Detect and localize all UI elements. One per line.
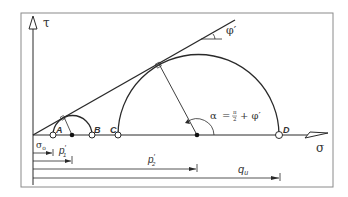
- sigma-axis-arrowhead-icon: [305, 132, 328, 138]
- alpha-equation: α =: [210, 110, 230, 121]
- arrowhead-icon: [46, 151, 52, 155]
- sigma-axis-label: σ: [316, 141, 324, 155]
- tau-axis-arrowhead-icon: [29, 16, 37, 29]
- point-d-label: D: [283, 125, 290, 135]
- arrowhead-icon: [271, 176, 279, 180]
- sigma0-label: σo: [36, 140, 46, 151]
- arrowhead-icon: [65, 159, 71, 163]
- point-a-label: A: [55, 125, 63, 135]
- p1-label: p′1: [58, 144, 67, 158]
- alpha-angle-arc-icon: [187, 119, 214, 135]
- large-circle-radius: [159, 64, 197, 135]
- alpha-pi: π: [233, 109, 237, 115]
- small-circle-radius: [64, 117, 72, 135]
- point-c-label: C: [110, 125, 117, 135]
- small-circle-center: [70, 133, 75, 138]
- alpha-two: 2: [233, 116, 237, 122]
- phi-label: φ′: [226, 24, 237, 37]
- p2-label: p′2: [147, 153, 156, 167]
- tau-axis-label: τ: [43, 16, 50, 30]
- arrowhead-icon: [189, 167, 196, 171]
- phi-angle-arc-icon: [213, 34, 215, 39]
- alpha-plus-phi: + φ′: [240, 110, 262, 121]
- point-b-label: B: [94, 125, 101, 135]
- mohr-circle-large: [118, 55, 279, 136]
- large-circle-center: [195, 133, 200, 138]
- mohr-circle-diagram: τ σ φ′ α = π 2 + φ′ A B C D σo p′1: [0, 0, 348, 197]
- qu-label: qu: [238, 163, 248, 176]
- point-d-marker: [276, 132, 283, 139]
